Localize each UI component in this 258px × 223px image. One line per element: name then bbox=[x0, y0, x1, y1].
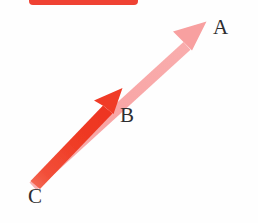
point-label-c: C bbox=[28, 186, 42, 207]
vector-CB bbox=[31, 88, 123, 189]
point-label-b: B bbox=[120, 105, 134, 126]
vector-CA-arrowhead bbox=[173, 22, 207, 51]
point-label-a: A bbox=[213, 17, 228, 38]
vector-figure: A B C bbox=[0, 0, 258, 223]
vector-CB-shaft bbox=[31, 106, 113, 190]
